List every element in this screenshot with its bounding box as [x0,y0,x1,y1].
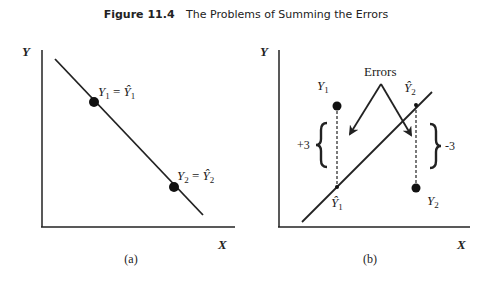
panel-b: Y X Y1 Ŷ1 Ŷ2 Y2 +3 -3 Errors [260,44,470,266]
observed-point-y2 [412,184,421,193]
observed-point-y1 [333,102,342,111]
x-axis-label: X [456,237,466,252]
left-brace [316,123,327,167]
y2-label: Y2 [427,193,439,210]
regression-line [55,59,203,215]
y-axis-label: Y [22,44,31,59]
panel-a: Y X Y1 = Ŷ1 Y2 = Ŷ2 (a) [22,44,235,266]
panel-b-caption: (b) [363,252,377,266]
predicted-point-yhat1 [335,185,339,189]
error2-value: -3 [445,139,455,153]
x-axis-label: X [217,237,227,252]
error1-value: +3 [297,138,310,152]
yhat2-label: Ŷ2 [404,80,416,97]
predicted-point-yhat2 [414,103,418,107]
right-brace [430,124,441,168]
figure-canvas: Y X Y1 = Ŷ1 Y2 = Ŷ2 (a) Y X Y1 Ŷ1 [0,0,492,281]
panel-a-caption: (a) [124,252,137,266]
y1-label: Y1 [317,78,329,95]
data-point-2 [169,182,179,192]
point1-label: Y1 = Ŷ1 [98,84,135,101]
y-axis-label: Y [260,44,269,59]
yhat1-label: Ŷ1 [331,195,343,212]
errors-label: Errors [364,64,397,79]
point2-label: Y2 = Ŷ2 [177,168,214,185]
errors-arrow-left [350,84,381,134]
